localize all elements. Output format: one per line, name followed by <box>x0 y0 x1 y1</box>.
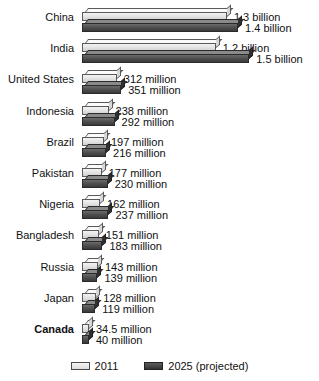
bar-2025 <box>82 85 121 94</box>
bar-value-label: 119 million <box>102 303 154 315</box>
bar-front-face <box>82 117 115 126</box>
bar-front-face <box>82 85 121 94</box>
bar-side-face <box>100 192 104 205</box>
chart-row: Canada34.5 million40 million <box>0 320 319 350</box>
category-label: Bangladesh <box>0 229 74 241</box>
bar-front-face <box>82 23 238 32</box>
legend-label: 2011 <box>95 360 119 372</box>
chart-row: Nigeria162 million237 million <box>0 195 319 225</box>
bar-top-face <box>85 300 102 304</box>
bar-2025 <box>82 54 249 63</box>
bar-side-face <box>216 36 220 49</box>
bar-value-label: 230 million <box>115 178 168 190</box>
category-label: Japan <box>0 292 74 304</box>
legend-swatch-light <box>71 362 90 370</box>
bar-side-face <box>121 78 125 91</box>
bar-side-face <box>108 171 112 184</box>
legend-label: 2025 (projected) <box>168 360 248 372</box>
bar-top-face <box>85 50 256 54</box>
bar-front-face <box>82 179 108 188</box>
bar-side-face <box>117 67 121 80</box>
bar-front-face <box>82 54 249 63</box>
bar-value-label: 237 million <box>115 209 168 221</box>
bar-front-face <box>82 304 95 313</box>
bar-value-label: 292 million <box>122 116 175 128</box>
bar-value-label: 183 million <box>109 240 162 252</box>
chart-row: Pakistan177 million230 million <box>0 164 319 194</box>
bar-value-label: 1.5 billion <box>256 53 302 65</box>
bar-side-face <box>89 327 93 340</box>
legend-item: 2025 (projected) <box>144 360 248 372</box>
bar-top-face <box>85 19 244 23</box>
bar-2025 <box>82 117 115 126</box>
category-label: China <box>0 11 74 23</box>
category-label: Indonesia <box>0 105 74 117</box>
category-label: Brazil <box>0 136 74 148</box>
bar-side-face <box>99 223 103 236</box>
bar-side-face <box>102 234 106 247</box>
population-bar-chart: China1.3 billion1.4 billionIndia1.2 bill… <box>0 0 319 381</box>
chart-row: China1.3 billion1.4 billion <box>0 8 319 38</box>
bar-side-face <box>238 15 242 28</box>
chart-row: Russia143 million139 million <box>0 258 319 288</box>
bar-front-face <box>82 148 106 157</box>
category-label: United States <box>0 73 74 85</box>
bar-2025 <box>82 241 102 250</box>
bar-2025 <box>82 23 238 32</box>
bar-side-face <box>104 129 108 142</box>
bar-2025 <box>82 179 108 188</box>
bar-value-label: 139 million <box>104 272 157 284</box>
category-label: Pakistan <box>0 167 74 179</box>
category-label: Canada <box>0 323 74 335</box>
bar-side-face <box>95 296 99 309</box>
bar-2025 <box>82 335 89 344</box>
chart-row: Japan128 million119 million <box>0 289 319 319</box>
category-label: India <box>0 42 74 54</box>
bar-value-label: 40 million <box>96 334 142 346</box>
legend-swatch-dark <box>144 362 163 370</box>
bar-front-face <box>82 241 102 250</box>
category-label: Nigeria <box>0 198 74 210</box>
chart-row: United States312 million351 million <box>0 70 319 100</box>
bar-side-face <box>108 203 112 216</box>
bar-2025 <box>82 273 97 282</box>
bar-value-label: 1.4 billion <box>245 22 291 34</box>
bar-front-face <box>82 335 89 344</box>
legend-item: 2011 <box>71 360 119 372</box>
category-label: Russia <box>0 261 74 273</box>
bar-top-face <box>85 269 104 273</box>
bar-2025 <box>82 148 106 157</box>
bar-side-face <box>227 4 231 17</box>
bar-side-face <box>97 265 101 278</box>
bar-front-face <box>82 210 108 219</box>
bar-side-face <box>102 160 106 173</box>
bar-2025 <box>82 210 108 219</box>
chart-row: Brazil197 million216 million <box>0 133 319 163</box>
chart-row: India1.2 billion1.5 billion <box>0 39 319 69</box>
chart-legend: 20112025 (projected) <box>0 357 319 375</box>
bar-front-face <box>82 273 97 282</box>
bar-2025 <box>82 304 95 313</box>
chart-row: Indonesia238 million292 million <box>0 102 319 132</box>
bar-top-face <box>85 8 233 12</box>
bar-side-face <box>106 140 110 153</box>
chart-row: Bangladesh151 million183 million <box>0 226 319 256</box>
bar-value-label: 216 million <box>113 147 166 159</box>
bar-side-face <box>249 47 253 60</box>
bar-value-label: 351 million <box>128 84 181 96</box>
bar-top-face <box>85 39 222 43</box>
